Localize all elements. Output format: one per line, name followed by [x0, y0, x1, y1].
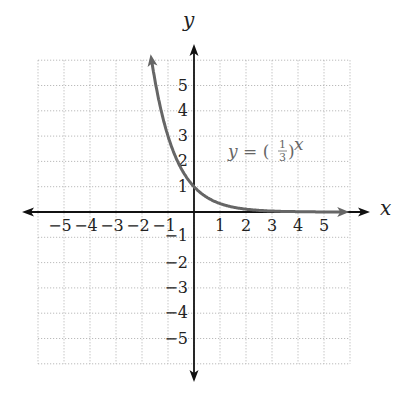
- x-tick-label: −5: [48, 216, 72, 235]
- y-axis-label: y: [182, 8, 195, 32]
- y-tick-label: −5: [164, 329, 188, 348]
- equation-annotation: y = ( 1 3 ) x: [227, 134, 304, 164]
- equation-denominator: 3: [279, 151, 286, 164]
- x-tick-label: −4: [74, 216, 98, 235]
- equation-equals: = (: [238, 141, 270, 161]
- y-tick-label: −1: [164, 226, 188, 245]
- equation-numerator: 1: [279, 138, 286, 151]
- x-tick-label: 2: [241, 216, 251, 235]
- equation-y: y: [227, 141, 238, 161]
- y-tick-label: −2: [164, 253, 188, 272]
- y-tick-label: 3: [178, 126, 188, 145]
- svg-text:y = (: y = (: [227, 141, 269, 161]
- equation-exponent: x: [294, 134, 304, 154]
- y-tick-label: −4: [164, 303, 188, 322]
- x-tick-label: 5: [319, 216, 329, 235]
- y-tick-label: −3: [164, 278, 188, 297]
- x-tick-label: −3: [100, 216, 124, 235]
- x-tick-label: 4: [293, 216, 303, 235]
- x-tick-label: −2: [126, 216, 150, 235]
- x-tick-label: 3: [267, 216, 277, 235]
- exponential-graph: −5−4−3−2−112345−5−4−3−212345−1 x y y = (…: [0, 0, 409, 399]
- y-tick-label: 5: [178, 76, 188, 95]
- y-tick-label: 4: [178, 101, 188, 120]
- x-tick-label: 1: [215, 216, 225, 235]
- x-axis-label: x: [380, 196, 391, 220]
